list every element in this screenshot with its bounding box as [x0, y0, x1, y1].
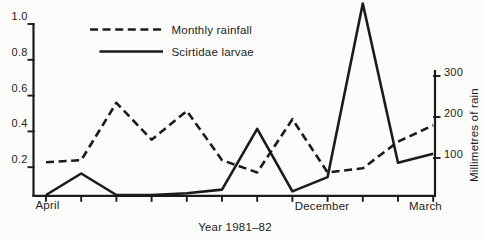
- left-tick-label-1: 1.0: [12, 10, 28, 22]
- right-axis-ticks: 300200100: [433, 66, 463, 160]
- right-axis-title: Millimetres of rain: [468, 88, 480, 182]
- rainfall-larvae-chart: Monthly rainfall Scirtidae larvae 1.00.8…: [0, 0, 486, 239]
- x-axis: April December March Year 1981–82: [32, 195, 442, 233]
- right-tick-label-200: 200: [444, 107, 463, 119]
- left-axis-ticks: 1.00.80.60.40.2: [12, 10, 35, 167]
- rainfall-line: [46, 103, 433, 173]
- left-tick-label-0.6: 0.6: [12, 82, 28, 94]
- x-label-april: April: [35, 199, 59, 211]
- x-label-march: March: [409, 200, 442, 212]
- left-axis: 1.00.80.60.40.2: [12, 10, 35, 197]
- chart-canvas: Monthly rainfall Scirtidae larvae 1.00.8…: [0, 0, 486, 239]
- legend-larvae-label: Scirtidae larvae: [172, 46, 254, 58]
- legend-rainfall-label: Monthly rainfall: [172, 24, 253, 36]
- right-tick-label-300: 300: [444, 66, 463, 78]
- left-tick-label-0.2: 0.2: [12, 153, 28, 165]
- x-label-december: December: [295, 200, 350, 212]
- left-tick-label-0.8: 0.8: [12, 46, 28, 58]
- x-axis-title: Year 1981–82: [198, 221, 272, 233]
- right-axis: 300200100 Millimetres of rain: [433, 66, 480, 197]
- right-tick-label-100: 100: [444, 148, 463, 160]
- legend: Monthly rainfall Scirtidae larvae: [90, 24, 254, 58]
- left-tick-label-0.4: 0.4: [12, 117, 28, 129]
